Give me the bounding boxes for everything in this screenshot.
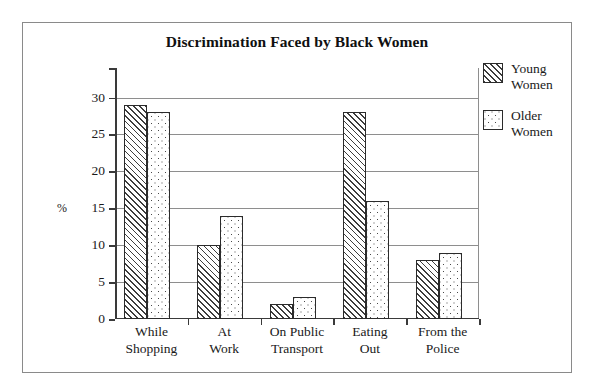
x-axis-category-labels: WhileShoppingAtWorkOn PublicTransportEat… — [115, 323, 479, 371]
chart-legend: YoungWomenOlderWomen — [483, 61, 571, 155]
bar-older-women — [220, 216, 243, 319]
x-axis-label-line: Shopping — [115, 340, 188, 357]
y-axis-tick-label: 10 — [92, 237, 106, 253]
bar-older-women — [366, 201, 389, 319]
y-axis-tick-mark-top — [109, 68, 115, 70]
x-axis-label: WhileShopping — [115, 323, 188, 357]
y-axis-tick-label: 15 — [92, 200, 106, 216]
legend-label-line: Older — [511, 108, 553, 124]
y-axis-tick-label: 5 — [98, 274, 105, 290]
x-axis-label-line: From the — [406, 323, 479, 340]
bar-young-women — [270, 304, 293, 319]
bars-layer — [115, 68, 479, 319]
y-axis-tick-label: 20 — [92, 163, 106, 179]
bar-young-women — [197, 245, 220, 319]
y-axis-tick-mark — [109, 282, 115, 284]
bar-young-women — [124, 105, 147, 319]
y-axis-tick-mark — [109, 208, 115, 210]
y-axis-tick-mark — [109, 319, 115, 321]
legend-entry-older-women[interactable]: OlderWomen — [483, 108, 571, 140]
chart-figure-frame: Discrimination Faced by Black Women 0510… — [22, 22, 572, 373]
x-axis-label-line: Out — [333, 340, 406, 357]
bar-young-women — [416, 260, 439, 319]
y-axis-tick-label: 0 — [98, 311, 105, 327]
legend-entry-young-women[interactable]: YoungWomen — [483, 61, 571, 93]
y-axis-title: % — [57, 201, 67, 216]
legend-label: OlderWomen — [511, 108, 553, 140]
bar-older-women — [439, 253, 462, 319]
x-axis-label-line: Work — [188, 340, 261, 357]
legend-label-line: Young — [511, 61, 553, 77]
x-axis-label-line: At — [188, 323, 261, 340]
x-axis-label: EatingOut — [333, 323, 406, 357]
bar-young-women — [343, 112, 366, 319]
y-axis-tick-mark — [109, 245, 115, 247]
legend-label: YoungWomen — [511, 61, 553, 93]
x-axis-label-line: Police — [406, 340, 479, 357]
y-axis-tick-label: 25 — [92, 126, 106, 142]
legend-swatch-dotted — [483, 110, 503, 130]
x-axis-tick-mark — [479, 319, 481, 325]
bar-older-women — [147, 112, 170, 319]
x-axis-label: AtWork — [188, 323, 261, 357]
y-axis-tick-mark — [109, 98, 115, 100]
y-axis-tick-mark — [109, 134, 115, 136]
bar-older-women — [293, 297, 316, 319]
y-axis-tick-label: 30 — [92, 90, 106, 106]
x-axis-label-line: Transport — [261, 340, 334, 357]
x-axis-label-line: On Public — [261, 323, 334, 340]
x-axis-label: On PublicTransport — [261, 323, 334, 357]
plot-area: 051015202530% — [115, 68, 479, 319]
legend-swatch-diagonal-hatch — [483, 63, 503, 83]
chart-title: Discrimination Faced by Black Women — [23, 33, 571, 51]
y-axis-tick-mark — [109, 171, 115, 173]
x-axis-label: From thePolice — [406, 323, 479, 357]
x-axis-label-line: While — [115, 323, 188, 340]
legend-label-line: Women — [511, 124, 553, 140]
x-axis-label-line: Eating — [333, 323, 406, 340]
legend-label-line: Women — [511, 77, 553, 93]
